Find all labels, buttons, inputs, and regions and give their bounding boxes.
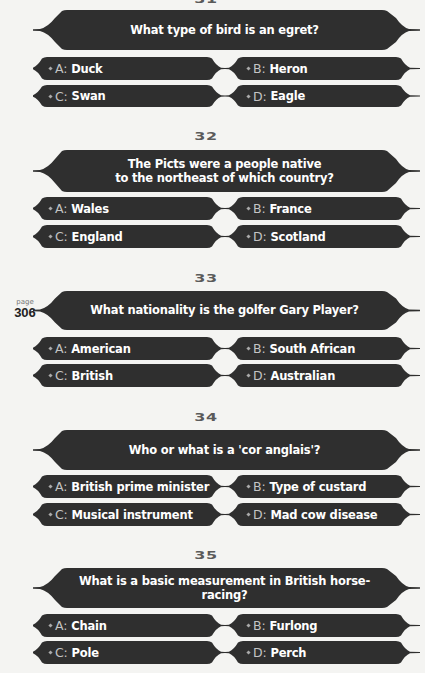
question-banner: The Picts were a people nativeto the nor…	[0, 150, 425, 192]
diamond-bullet-icon	[246, 623, 250, 627]
question-banner: Who or what is a 'cor anglais'?	[0, 430, 425, 470]
answer-text: Type of custard	[269, 480, 366, 494]
answer-label: D:Australian	[246, 364, 335, 387]
answer-label: D:Eagle	[246, 85, 305, 107]
question-banner: What nationality is the golfer Gary Play…	[0, 291, 425, 330]
diamond-bullet-icon	[246, 234, 250, 238]
answer-letter: D:	[253, 229, 266, 244]
diamond-bullet-icon	[246, 512, 250, 516]
answer-letter: B:	[253, 479, 265, 494]
question-text-line: The Picts were a people native	[128, 157, 322, 172]
answer-letter: B:	[253, 61, 265, 76]
answer-b[interactable]: B:Type of custard	[0, 475, 425, 498]
diamond-bullet-icon	[246, 373, 250, 377]
question-text: The Picts were a people nativeto the nor…	[62, 150, 387, 192]
answer-letter: D:	[253, 368, 266, 383]
answer-d[interactable]: D:Mad cow disease	[0, 503, 425, 526]
answer-text: Perch	[270, 646, 306, 660]
answer-letter: B:	[253, 201, 265, 216]
diamond-bullet-icon	[246, 94, 250, 98]
answer-text: Furlong	[269, 619, 317, 633]
question-number: 35	[0, 550, 425, 561]
question-number: 34	[0, 412, 425, 423]
diamond-bullet-icon	[246, 484, 250, 488]
answer-label: B:France	[246, 197, 312, 220]
diamond-bullet-icon	[246, 66, 250, 70]
answer-letter: D:	[253, 645, 266, 660]
question-banner: What type of bird is an egret?	[0, 10, 425, 50]
answer-letter: B:	[253, 618, 265, 633]
answer-label: D:Mad cow disease	[246, 503, 377, 526]
question-banner: What is a basic measurement in British h…	[0, 568, 425, 608]
answer-text: South African	[269, 342, 355, 356]
answer-label: B:Type of custard	[246, 475, 366, 498]
answer-text: Scotland	[270, 230, 325, 244]
answer-letter: D:	[253, 507, 266, 522]
question-text: What is a basic measurement in British h…	[62, 568, 387, 608]
question-text: What type of bird is an egret?	[62, 10, 387, 50]
question-text-line: to the northeast of which country?	[115, 171, 334, 186]
question-number: 31	[0, 0, 425, 5]
answer-d[interactable]: D:Australian	[0, 364, 425, 387]
answer-b[interactable]: B:Heron	[0, 57, 425, 80]
diamond-bullet-icon	[246, 346, 250, 350]
answer-text: Australian	[270, 369, 335, 383]
answer-label: D:Scotland	[246, 225, 325, 248]
question-number: 33	[0, 273, 425, 284]
answer-b[interactable]: B:South African	[0, 337, 425, 360]
diamond-bullet-icon	[246, 650, 250, 654]
answer-text: Mad cow disease	[270, 508, 377, 522]
question-number: 32	[0, 131, 425, 142]
answer-text: Eagle	[270, 89, 305, 103]
answer-label: B:Heron	[246, 57, 308, 80]
question-text: What nationality is the golfer Gary Play…	[62, 291, 387, 330]
answer-text: Heron	[269, 62, 307, 76]
answer-d[interactable]: D:Scotland	[0, 225, 425, 248]
answer-d[interactable]: D:Perch	[0, 641, 425, 664]
answer-letter: B:	[253, 341, 265, 356]
question-text: Who or what is a 'cor anglais'?	[62, 430, 387, 470]
answer-label: B:Furlong	[246, 614, 317, 637]
answer-label: B:South African	[246, 337, 355, 360]
answer-label: D:Perch	[246, 641, 306, 664]
answer-letter: D:	[253, 89, 266, 104]
diamond-bullet-icon	[246, 206, 250, 210]
answer-d[interactable]: D:Eagle	[0, 85, 425, 107]
answer-text: France	[269, 202, 311, 216]
answer-b[interactable]: B:Furlong	[0, 614, 425, 637]
answer-b[interactable]: B:France	[0, 197, 425, 220]
